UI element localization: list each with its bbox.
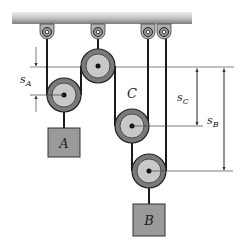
ceiling-pulley-3 — [141, 24, 155, 39]
block-b-label: B — [143, 213, 154, 228]
ceiling-pulley-4 — [157, 24, 171, 39]
block-a-label: A — [58, 136, 68, 151]
pulley-top — [81, 49, 115, 83]
s-b-label: sB — [207, 114, 219, 129]
ceiling-pulley-1 — [40, 24, 54, 39]
ceiling-beam — [12, 12, 192, 24]
pulley-diagram: A B C sA sC sB — [0, 0, 247, 248]
dimension-s-b — [149, 68, 233, 171]
ceiling-pulley-2 — [91, 24, 105, 39]
pulley-c-label: C — [127, 86, 137, 101]
s-c-label: sC — [177, 91, 189, 106]
s-a-label: sA — [20, 73, 32, 88]
